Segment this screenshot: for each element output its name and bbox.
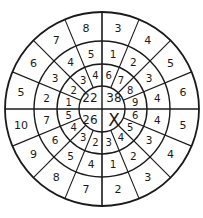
- center-top-right: 38: [106, 91, 121, 105]
- outer-ring-cell: 6: [179, 86, 186, 99]
- middle-ring-cell: 4: [154, 114, 161, 126]
- inner-ring-cell: 6: [105, 70, 111, 81]
- inner-ring-cell: 4: [118, 132, 124, 143]
- inner-ring-cell: 8: [127, 85, 133, 96]
- middle-ring-cell: 3: [52, 72, 59, 84]
- inner-ring-cell: 7: [118, 75, 124, 86]
- inner-ring-cell: 6: [132, 110, 138, 121]
- inner-ring-cell: 2: [92, 137, 98, 148]
- outer-ring-cell: 5: [167, 57, 174, 70]
- middle-ring-cell: 2: [43, 92, 50, 104]
- outer-ring-cell: 8: [82, 22, 89, 35]
- middle-ring-cell: 1: [110, 48, 117, 60]
- outer-ring-cell: 8: [53, 171, 60, 184]
- outer-ring-cell: 3: [115, 22, 122, 35]
- outer-ring-cell: 4: [167, 148, 174, 161]
- sector-spoke: [118, 40, 170, 92]
- outer-ring-cell: 10: [14, 119, 28, 132]
- inner-ring-cell: 2: [71, 85, 77, 96]
- sector-spoke: [118, 125, 170, 177]
- center-top-left: 22: [82, 91, 97, 105]
- inner-ring-cell: 5: [66, 110, 72, 121]
- center-bottom-left: 26: [82, 113, 97, 127]
- inner-ring-cell: 3: [80, 132, 86, 143]
- inner-ring-cell: 1: [66, 97, 72, 108]
- wheel-lines: [5, 12, 199, 206]
- outer-ring-cell: 6: [30, 57, 37, 70]
- inner-ring-cell: 9: [132, 97, 138, 108]
- outer-ring-cell: 2: [115, 183, 122, 196]
- middle-ring-cell: 6: [52, 134, 59, 146]
- outer-ring-cell: 7: [53, 34, 60, 47]
- sector-spoke: [33, 125, 85, 177]
- outer-ring-cell: 9: [30, 148, 37, 161]
- number-wheel-puzzle: 6789654323451234123443214567234534565432…: [0, 0, 203, 218]
- outer-ring-cell: 3: [144, 171, 151, 184]
- middle-ring-cell: 3: [146, 134, 153, 146]
- middle-ring-cell: 7: [43, 114, 50, 126]
- middle-ring-cell: 3: [146, 72, 153, 84]
- inner-ring-cell: 5: [127, 122, 133, 133]
- inner-ring-cell: 4: [71, 122, 77, 133]
- center-bottom-right-unknown: X: [108, 110, 120, 130]
- inner-ring-cell: 3: [105, 137, 111, 148]
- middle-ring-cell: 4: [154, 92, 161, 104]
- middle-ring-cell: 5: [67, 150, 74, 162]
- outer-ring-cell: 4: [144, 34, 151, 47]
- middle-ring-cell: 4: [88, 158, 95, 170]
- inner-ring-cell: 4: [92, 70, 98, 81]
- middle-ring-cell: 5: [88, 48, 95, 60]
- inner-ring-cell: 3: [80, 75, 86, 86]
- outer-ring-cell: 5: [18, 86, 25, 99]
- sector-spoke: [33, 40, 85, 92]
- middle-ring-cell: 1: [110, 158, 117, 170]
- outer-ring-cell: 5: [179, 119, 186, 132]
- middle-ring-cell: 2: [130, 150, 137, 162]
- outer-ring-cell: 7: [82, 183, 89, 196]
- middle-ring-cell: 2: [130, 56, 137, 68]
- middle-ring-cell: 4: [67, 56, 74, 68]
